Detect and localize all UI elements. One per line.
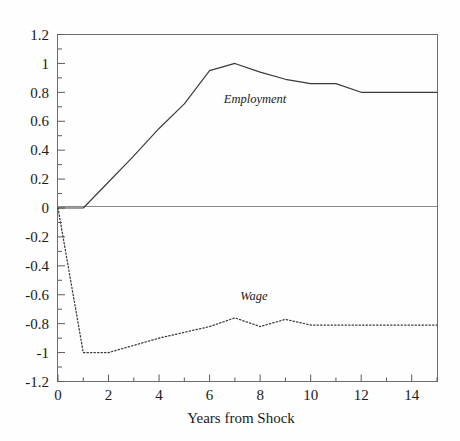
y-tick-label: -0.4 (25, 258, 49, 274)
y-tick-label: -0.2 (25, 229, 49, 245)
y-tick-label: -0.6 (25, 287, 49, 303)
x-tick-label: 6 (206, 387, 214, 403)
figure-container: 1.210.80.60.40.20-0.2-0.4-0.6-0.8-1-1.2 … (0, 0, 460, 441)
y-tick-label: 1 (42, 56, 50, 72)
chart-background (0, 0, 460, 441)
y-tick-label: 0 (42, 200, 50, 216)
x-tick-label: 12 (354, 387, 369, 403)
x-tick-label: 8 (256, 387, 264, 403)
y-tick-label: 0.4 (30, 142, 49, 158)
x-tick-label: 4 (155, 387, 163, 403)
y-tick-label: -1 (37, 345, 50, 361)
y-tick-label: -1.2 (25, 374, 49, 390)
line-chart: 1.210.80.60.40.20-0.2-0.4-0.6-0.8-1-1.2 … (0, 0, 460, 441)
x-tick-label: 10 (303, 387, 318, 403)
x-axis-title: Years from Shock (187, 410, 295, 426)
y-tick-label: -0.8 (25, 316, 49, 332)
y-tick-label: 0.6 (30, 113, 49, 129)
x-tick-label: 0 (54, 387, 62, 403)
y-tick-label: 1.2 (30, 27, 49, 43)
wage-series-label: Wage (240, 289, 268, 303)
x-tick-label: 2 (105, 387, 113, 403)
y-tick-label: 0.2 (30, 171, 49, 187)
y-tick-label: 0.8 (30, 85, 49, 101)
employment-series-label: Employment (223, 92, 287, 106)
x-tick-label: 14 (404, 387, 420, 403)
